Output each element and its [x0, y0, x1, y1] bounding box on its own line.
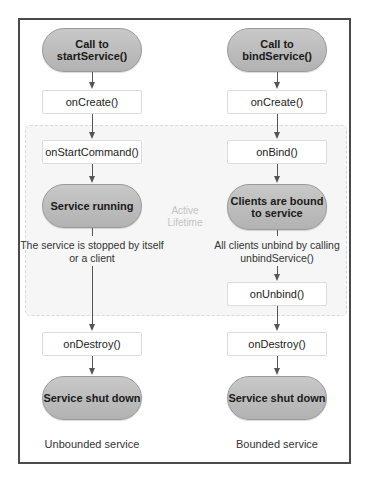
onbind-box: onBind() [227, 140, 327, 164]
service-running-node: Service running [42, 184, 142, 228]
arrow-down-icon [89, 132, 95, 139]
right-oncreate-box: onCreate() [227, 90, 327, 114]
connector-line [277, 230, 278, 236]
connector-line [92, 114, 93, 134]
arrow-down-icon [274, 132, 280, 139]
right-ondestroy-box: onDestroy() [227, 332, 327, 356]
connector-line [277, 114, 278, 134]
connector-line [277, 306, 278, 326]
connector-line [92, 266, 93, 326]
stop-note: The service is stopped by itself or a cl… [17, 239, 167, 265]
connector-line [92, 228, 93, 236]
right-shutdown-node: Service shut down [227, 376, 327, 420]
onstartcommand-box: onStartCommand() [42, 140, 142, 164]
unbind-note: All clients unbind by calling unbindServ… [202, 239, 352, 265]
start-service-node: Call to startService() [42, 28, 142, 72]
arrow-down-icon [89, 82, 95, 89]
clients-bound-node: Clients are bound to service [227, 184, 327, 230]
unbounded-service-caption: Unbounded service [42, 437, 142, 451]
arrow-down-icon [274, 82, 280, 89]
arrow-down-icon [274, 176, 280, 183]
bounded-service-caption: Bounded service [227, 437, 327, 451]
arrow-down-icon [89, 324, 95, 331]
arrow-down-icon [89, 176, 95, 183]
left-oncreate-box: onCreate() [42, 90, 142, 114]
arrow-down-icon [274, 324, 280, 331]
bind-service-node: Call to bindService() [227, 28, 327, 72]
active-lifetime-label: Active Lifetime [160, 205, 210, 229]
arrow-down-icon [274, 274, 280, 281]
left-shutdown-node: Service shut down [42, 376, 142, 420]
left-ondestroy-box: onDestroy() [42, 332, 142, 356]
arrow-down-icon [274, 368, 280, 375]
arrow-down-icon [89, 368, 95, 375]
onunbind-box: onUnbind() [227, 282, 327, 306]
